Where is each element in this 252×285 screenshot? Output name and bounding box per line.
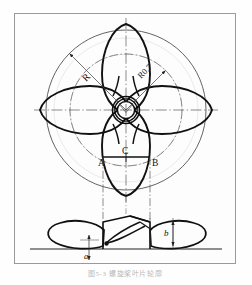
elevation-view: b a <box>30 216 222 261</box>
pitch-chord-upper <box>106 222 140 243</box>
label-point-a: A <box>98 158 105 168</box>
figure-page: R R0.7 A C B <box>0 0 252 285</box>
label-dim-a: a <box>84 251 88 261</box>
pitch-origin-node <box>104 241 108 245</box>
elevation-blade-left <box>48 221 104 249</box>
propeller-drawing: R R0.7 A C B <box>0 0 252 285</box>
label-radius-full: R <box>80 71 93 84</box>
label-radius-07: R0.7 <box>135 62 154 81</box>
elevation-hub-top-edge <box>130 216 150 222</box>
elevation-blade-right <box>150 221 206 249</box>
elevation-hub-body <box>103 216 150 249</box>
plan-view: R R0.7 A C B <box>34 18 218 202</box>
figure-caption: 图5-3 螺旋桨叶片轮廓 <box>14 268 236 278</box>
label-point-b: B <box>152 158 158 168</box>
label-dim-b: b <box>164 228 169 238</box>
label-point-c: C <box>122 146 128 156</box>
